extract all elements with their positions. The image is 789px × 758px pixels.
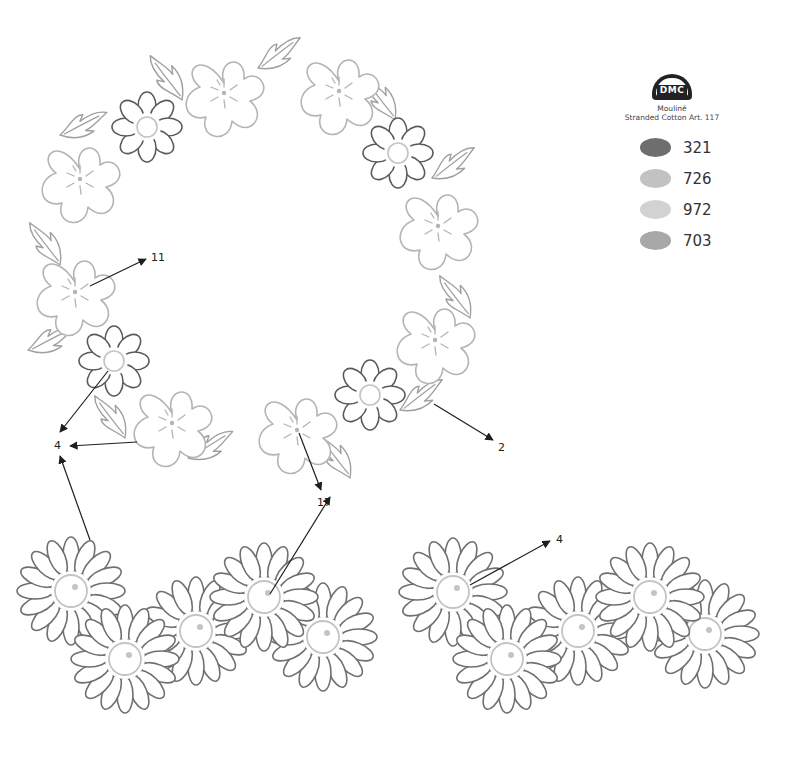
dmc-logo: DMC <box>652 74 692 100</box>
thread-color-swatch <box>640 169 671 188</box>
product-name-line2: Stranded Cotton Art. 117 <box>606 113 738 122</box>
brand-text: DMC <box>657 85 687 96</box>
callout-label-4: 4 <box>54 439 61 452</box>
thread-swatch-list: 321 726 972 703 <box>612 132 732 256</box>
callout-label-11: 11 <box>151 251 165 264</box>
daisy-border-left <box>17 537 377 713</box>
thread-code: 726 <box>683 170 712 188</box>
thread-code: 703 <box>683 232 712 250</box>
thread-code: 972 <box>683 201 712 219</box>
thread-legend: DMC Mouliné Stranded Cotton Art. 117 321… <box>612 74 732 256</box>
thread-color-swatch <box>640 138 671 157</box>
thread-swatch-row: 972 <box>640 194 732 225</box>
thread-swatch-row: 703 <box>640 225 732 256</box>
product-name-line1: Mouliné <box>606 104 738 113</box>
callout-label-17: 17 <box>317 496 331 509</box>
callout-label-4-right: 4 <box>556 533 563 546</box>
thread-code: 321 <box>683 139 712 157</box>
thread-color-swatch <box>640 231 671 250</box>
thread-color-swatch <box>640 200 671 219</box>
thread-swatch-row: 726 <box>640 163 732 194</box>
callout-label-2: 2 <box>498 441 505 454</box>
daisy-border-right <box>399 538 759 713</box>
thread-swatch-row: 321 <box>640 132 732 163</box>
wreath-dark-flowers <box>79 92 433 430</box>
